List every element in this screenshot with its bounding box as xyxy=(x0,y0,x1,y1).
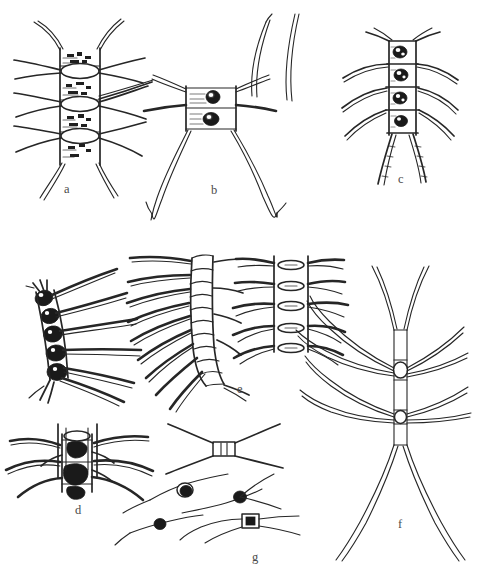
panel-label-d: d xyxy=(75,503,81,518)
plate-drawing xyxy=(0,0,479,584)
panel-label-c: c xyxy=(398,172,404,187)
panel-g-figure xyxy=(115,424,300,545)
panel-label-g: g xyxy=(252,550,258,565)
diatom-plate: a b c d e f g xyxy=(0,0,479,584)
panel-label-f: f xyxy=(398,517,402,532)
panel-label-a: a xyxy=(64,182,70,197)
panel-label-e: e xyxy=(237,382,243,397)
panel-e-right-figure xyxy=(233,256,348,365)
panel-c-figure xyxy=(342,28,458,185)
panel-d-upper-figure xyxy=(26,269,141,406)
panel-b-figure xyxy=(144,14,299,220)
panel-label-b: b xyxy=(211,183,217,198)
panel-e-left-figure xyxy=(127,255,249,412)
panel-d-figure xyxy=(6,424,153,500)
panel-a-figure xyxy=(14,19,153,200)
